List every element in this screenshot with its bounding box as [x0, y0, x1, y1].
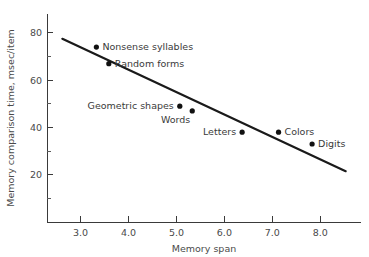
- data-point-label: Digits: [318, 138, 345, 149]
- chart-canvas: 20406080 3.04.05.06.07.08.0 Nonsense syl…: [0, 0, 369, 257]
- data-point-label: Nonsense syllables: [102, 41, 193, 52]
- data-point-dot: [94, 44, 99, 49]
- x-tick-label: 6.0: [217, 227, 232, 238]
- data-point-label: Random forms: [115, 58, 185, 69]
- y-tick-label: 80: [30, 27, 42, 38]
- data-point-label: Words: [161, 114, 190, 125]
- scatter-chart: 20406080 3.04.05.06.07.08.0 Nonsense syl…: [0, 0, 369, 257]
- x-tick-label: 4.0: [121, 227, 136, 238]
- data-point-dot: [276, 130, 281, 135]
- data-point-dot: [106, 61, 111, 66]
- y-tick-group: 20406080: [30, 27, 53, 198]
- y-tick-label: 40: [30, 122, 42, 133]
- x-axis-label: Memory span: [172, 243, 236, 254]
- y-tick-label: 20: [30, 169, 42, 180]
- x-tick-label: 7.0: [265, 227, 280, 238]
- data-point-label: Geometric shapes: [88, 100, 174, 111]
- data-point-dot: [240, 130, 245, 135]
- data-point-label: Letters: [203, 126, 236, 137]
- x-tick-label: 3.0: [73, 227, 88, 238]
- y-tick-label: 60: [30, 75, 42, 86]
- data-point-dot: [177, 104, 182, 109]
- data-point-label: Colors: [285, 126, 315, 137]
- data-point-dot: [190, 108, 195, 113]
- data-label-group: Nonsense syllablesRandom formsGeometric …: [88, 41, 346, 149]
- y-axis-label: Memory comparison time, msec/item: [5, 29, 16, 207]
- x-tick-group: 3.04.05.06.07.08.0: [73, 216, 328, 238]
- x-tick-label: 5.0: [169, 227, 184, 238]
- data-point-dot: [310, 141, 315, 146]
- x-tick-label: 8.0: [313, 227, 328, 238]
